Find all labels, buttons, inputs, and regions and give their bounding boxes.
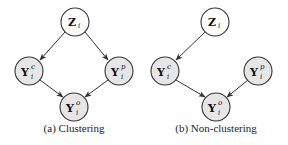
node-y-p: Y p i (244, 57, 272, 85)
svg-text:c: c (31, 63, 35, 71)
graphical-models-figure: Z i Y c i Y p i Y o i (a) Clustering (0, 0, 288, 145)
edge-yc-to-yo (176, 80, 205, 97)
svg-text:i: i (78, 22, 80, 30)
node-z: Z i (201, 8, 229, 36)
svg-text:p: p (121, 63, 126, 71)
svg-text:i: i (218, 109, 220, 117)
caption-non-clustering: (b) Non-clustering (175, 122, 257, 135)
svg-text:Y: Y (20, 66, 29, 79)
svg-text:p: p (260, 63, 265, 71)
svg-text:c: c (167, 63, 171, 71)
panel-non-clustering: Z i Y c i Y p i Y o i (b) Non-clustering (151, 8, 272, 135)
svg-text:i: i (167, 73, 169, 81)
panel-clustering: Z i Y c i Y p i Y o i (a) Clustering (15, 8, 133, 135)
svg-text:Y: Y (65, 102, 74, 115)
svg-text:i: i (218, 22, 220, 30)
svg-text:o: o (76, 99, 80, 107)
edge-yp-to-yo (227, 80, 248, 97)
node-y-c: Y c i (15, 57, 43, 85)
svg-text:o: o (218, 99, 222, 107)
node-z: Z i (61, 8, 89, 36)
svg-text:Z: Z (208, 16, 216, 29)
edge-z-to-yc (40, 32, 65, 60)
svg-text:Y: Y (249, 66, 258, 79)
node-y-o: Y o i (202, 93, 230, 121)
svg-text:Y: Y (110, 66, 119, 79)
node-y-o: Y o i (60, 93, 88, 121)
edge-z-to-yp (85, 32, 108, 60)
svg-text:Y: Y (207, 102, 216, 115)
svg-text:Z: Z (68, 16, 76, 29)
caption-clustering: (a) Clustering (44, 122, 105, 135)
edge-z-to-yc (176, 32, 205, 60)
svg-text:i: i (76, 109, 78, 117)
edge-yp-to-yo (85, 80, 108, 97)
node-y-p: Y p i (105, 57, 133, 85)
edge-yc-to-yo (40, 80, 63, 97)
svg-text:i: i (260, 73, 262, 81)
svg-text:i: i (31, 73, 33, 81)
node-y-c: Y c i (151, 57, 179, 85)
svg-text:Y: Y (156, 66, 165, 79)
svg-text:i: i (121, 73, 123, 81)
